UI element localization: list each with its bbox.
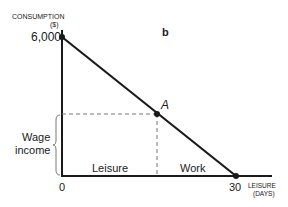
x-axis-label: LEISURE [248, 182, 276, 189]
x-tick-30: 30 [229, 181, 241, 193]
income-label: income [15, 144, 50, 156]
leisure-segment-label: Leisure [92, 162, 128, 174]
brace-icon [53, 115, 60, 175]
work-segment-label: Work [180, 162, 205, 174]
budget-line [62, 37, 236, 176]
wage-label: Wage [22, 131, 50, 143]
y-axis-label: CONSUMPTION [12, 13, 65, 20]
y-tick-6000: 6,000 [31, 30, 61, 44]
x-axis-unit: (DAYS) [253, 190, 275, 197]
y-axis-unit: ($) [50, 21, 59, 28]
point-30 [233, 173, 239, 179]
panel-label: b [162, 26, 169, 38]
point-a [154, 111, 160, 117]
point-a-label: A [161, 98, 169, 112]
x-origin: 0 [59, 181, 65, 193]
